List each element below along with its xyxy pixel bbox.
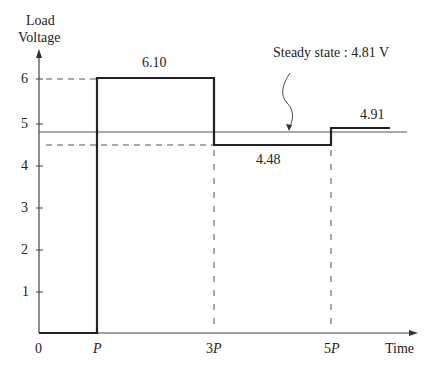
steady-state-pointer xyxy=(283,73,293,129)
value-label-4-91: 4.91 xyxy=(360,107,385,123)
x-axis-arrow-icon xyxy=(409,330,418,336)
value-label-4-48: 4.48 xyxy=(256,152,281,168)
y-tick-2: 2 xyxy=(21,242,28,258)
x-axis-label: Time xyxy=(385,341,414,357)
y-axis-label-line1: Load xyxy=(26,13,55,29)
x-tick-3P: 3P xyxy=(206,341,222,357)
y-axis-arrow-icon xyxy=(36,49,42,58)
x-tick-5P: 5P xyxy=(324,341,340,357)
y-tick-3: 3 xyxy=(21,200,28,216)
y-tick-5: 5 xyxy=(21,116,28,132)
y-tick-4: 4 xyxy=(21,158,28,174)
x-tick-0: 0 xyxy=(35,341,42,357)
y-tick-1: 1 xyxy=(22,284,29,300)
y-axis-label-line2: Voltage xyxy=(18,30,61,46)
value-label-6-10: 6.10 xyxy=(142,55,167,71)
steady-state-annotation: Steady state : 4.81 V xyxy=(273,45,389,61)
y-tick-6: 6 xyxy=(21,71,28,87)
pointer-arrowhead-icon xyxy=(286,124,292,131)
reference-dashes xyxy=(46,79,331,330)
x-tick-P: P xyxy=(93,341,102,357)
